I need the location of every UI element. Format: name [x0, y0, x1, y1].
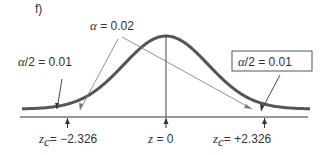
left-tail-label: α/2 = 0.01: [18, 54, 72, 69]
axis-label-left-critical: zc= −2.326: [38, 131, 98, 149]
normal-distribution-diagram: f) α = 0.02 α/2 = 0.01 α/2 = 0.01 zc= −2…: [0, 0, 324, 155]
panel-label: f): [35, 2, 42, 16]
right-tail-label: α/2 = 0.01: [238, 54, 292, 69]
axis-label-center: z = 0: [147, 131, 174, 146]
alpha-pointer-right: [122, 37, 252, 109]
alpha-arrowhead-right: [244, 104, 252, 109]
tick-center-arrowhead: [164, 118, 169, 124]
alpha-label: α = 0.02: [90, 18, 134, 33]
tick-left-critical-arrowhead: [65, 118, 70, 124]
axis-label-right-critical: zc= +2.326: [212, 131, 272, 149]
tick-right-critical-arrowhead: [262, 118, 267, 124]
